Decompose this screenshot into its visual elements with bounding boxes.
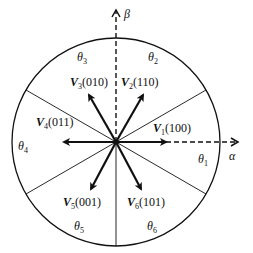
sector-theta2-label: θ2 xyxy=(148,50,158,66)
beta-axis-label: β xyxy=(123,7,130,21)
sector-theta3-label: θ3 xyxy=(77,50,87,66)
vector-v2-label: V2(110) xyxy=(121,75,159,91)
vector-v3-arrow xyxy=(89,95,116,142)
space-vector-diagram: β α V1(100) V2(110) V3(010) V4(011) V5(0… xyxy=(0,0,253,253)
vector-v2-arrow xyxy=(116,95,143,142)
vector-v3-label: V3(010) xyxy=(70,75,108,91)
origin-dot xyxy=(114,140,118,144)
alpha-axis-label: α xyxy=(229,149,236,163)
sector-theta6-label: θ6 xyxy=(147,219,157,235)
sector-theta5-label: θ5 xyxy=(74,219,84,235)
vector-v5-label: V5(001) xyxy=(63,195,101,211)
sector-theta4-label: θ4 xyxy=(18,139,28,155)
vector-v6-label: V6(101) xyxy=(127,195,165,211)
sector-theta1-label: θ1 xyxy=(198,152,208,168)
vector-v1-label: V1(100) xyxy=(153,121,191,137)
vector-v4-label: V4(011) xyxy=(36,115,74,131)
